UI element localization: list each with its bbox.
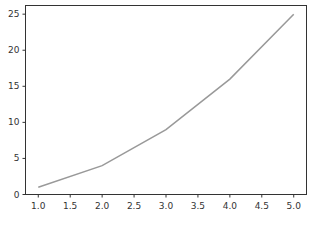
x-tick-label: 4.0: [223, 201, 238, 211]
x-tick-label: 3.0: [159, 201, 174, 211]
y-axis: 0510152025: [8, 9, 25, 199]
x-tick-label: 5.0: [287, 201, 302, 211]
x-tick-label: 2.5: [127, 201, 141, 211]
y-tick-label: 15: [8, 81, 19, 91]
x-axis: 1.01.52.02.53.03.54.04.55.0: [31, 195, 301, 211]
y-tick-label: 20: [8, 45, 20, 55]
plot-frame: [26, 6, 307, 195]
y-tick-label: 5: [14, 153, 20, 163]
x-tick-label: 1.0: [31, 201, 46, 211]
y-tick-label: 10: [8, 117, 20, 127]
line-chart: 0510152025 1.01.52.02.53.03.54.04.55.0: [0, 0, 313, 227]
y-tick-label: 25: [8, 9, 19, 19]
y-tick-label: 0: [14, 190, 20, 200]
x-tick-label: 4.5: [255, 201, 269, 211]
x-tick-label: 2.0: [95, 201, 110, 211]
x-tick-label: 3.5: [191, 201, 205, 211]
x-tick-label: 1.5: [63, 201, 77, 211]
